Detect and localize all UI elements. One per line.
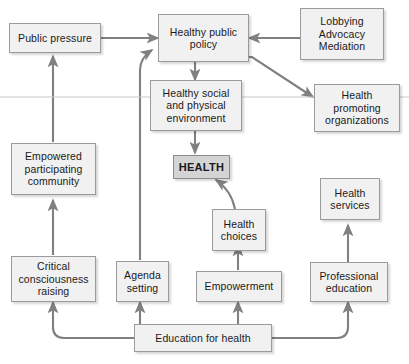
node-health-choices[interactable]: Health choices bbox=[212, 209, 266, 251]
node-label: Healthy social and physical environment bbox=[160, 87, 233, 125]
node-label: Lobbying Advocacy Mediation bbox=[316, 15, 368, 53]
node-health-promoting-organizations[interactable]: Health promoting organizations bbox=[314, 84, 400, 132]
node-healthy-social-physical-environment[interactable]: Healthy social and physical environment bbox=[150, 80, 242, 131]
node-label: Health services bbox=[327, 187, 372, 212]
node-label: Agenda setting bbox=[121, 269, 164, 294]
node-label: Education for health bbox=[152, 332, 253, 345]
node-label: Critical consciousness raising bbox=[15, 260, 91, 298]
node-label: Professional education bbox=[317, 270, 382, 295]
diagram-canvas: Public pressure Healthy public policy Lo… bbox=[0, 0, 409, 364]
node-label: Empowerment bbox=[202, 280, 277, 293]
node-label: Healthy public policy bbox=[167, 26, 240, 51]
node-health[interactable]: HEALTH bbox=[173, 155, 230, 179]
edge-education-to-critical bbox=[53, 302, 140, 338]
node-professional-education[interactable]: Professional education bbox=[310, 262, 388, 302]
node-label: Health promoting organizations bbox=[322, 89, 392, 127]
node-education-for-health[interactable]: Education for health bbox=[134, 324, 272, 352]
node-public-pressure[interactable]: Public pressure bbox=[9, 23, 101, 53]
edge-policy-to-orgs bbox=[243, 57, 313, 97]
node-lobbying-advocacy-mediation[interactable]: Lobbying Advocacy Mediation bbox=[300, 8, 384, 60]
node-critical-consciousness-raising[interactable]: Critical consciousness raising bbox=[11, 256, 96, 302]
node-agenda-setting[interactable]: Agenda setting bbox=[116, 261, 169, 302]
edge-education-to-professional bbox=[269, 302, 348, 338]
node-label: Health choices bbox=[218, 218, 260, 243]
node-empowered-participating-community[interactable]: Empowered participating community bbox=[11, 143, 96, 195]
edge-choices-to-health bbox=[216, 180, 235, 209]
node-health-services[interactable]: Health services bbox=[320, 178, 380, 220]
node-label: HEALTH bbox=[176, 161, 228, 174]
node-healthy-public-policy[interactable]: Healthy public policy bbox=[158, 14, 249, 62]
node-label: Public pressure bbox=[15, 32, 95, 45]
node-label: Empowered participating community bbox=[22, 150, 86, 188]
node-empowerment[interactable]: Empowerment bbox=[196, 271, 282, 302]
